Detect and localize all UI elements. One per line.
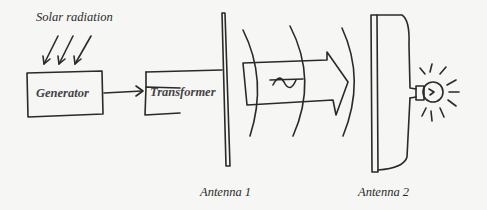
antenna-1: [222, 13, 230, 166]
light-bulb-icon: [416, 64, 459, 121]
solar-radiation-arrows-icon: [43, 36, 91, 64]
solar-power-transmission-diagram: Solar radiation Generator Transformer An…: [0, 0, 487, 210]
power-beam-arrow: [243, 52, 348, 115]
dollar-icon: [270, 79, 303, 80]
antenna-2-label: Antenna 2: [358, 185, 409, 200]
transformer-label: Transformer: [150, 85, 216, 100]
antenna-2: [371, 15, 378, 172]
antenna-1-label: Antenna 1: [200, 185, 251, 200]
diagram-drawing: [0, 0, 487, 210]
generator-label: Generator: [36, 86, 89, 101]
radio-wave-2: [290, 26, 305, 136]
generator-to-transformer-arrow: [104, 91, 142, 93]
solar-radiation-label: Solar radiation: [36, 10, 113, 25]
